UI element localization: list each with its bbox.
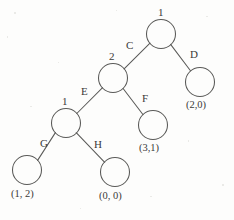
node-f-leaf (139, 111, 168, 140)
leaf-value-f: (3,1) (139, 143, 159, 154)
edge-label-d: D (190, 49, 198, 60)
leaf-value-g: (1, 2) (11, 189, 34, 200)
node-value-two: 2 (109, 51, 115, 62)
node-d-leaf (186, 68, 215, 97)
edge-label-g: G (40, 138, 48, 149)
edge-line-F (123, 89, 143, 115)
edge-label-c: C (126, 40, 133, 51)
node-one (52, 109, 81, 138)
edge-line-D (171, 44, 191, 70)
leaf-value-d: (2,0) (186, 100, 206, 111)
node-root (147, 20, 176, 49)
node-two (99, 64, 128, 93)
edge-label-e: E (81, 86, 88, 97)
edge-label-h: H (94, 139, 102, 150)
tree-nodes (13, 20, 215, 187)
leaf-value-h: (0, 0) (99, 191, 122, 202)
node-h-leaf (101, 158, 130, 187)
binary-tree-diagram: 1 2 1 C D E F G H (2,0) (3,1) (1, 2) (0,… (0, 0, 234, 220)
node-value-one: 1 (62, 96, 68, 107)
node-value-root: 1 (158, 7, 164, 18)
edge-label-f: F (142, 93, 148, 104)
node-g-leaf (13, 156, 42, 185)
